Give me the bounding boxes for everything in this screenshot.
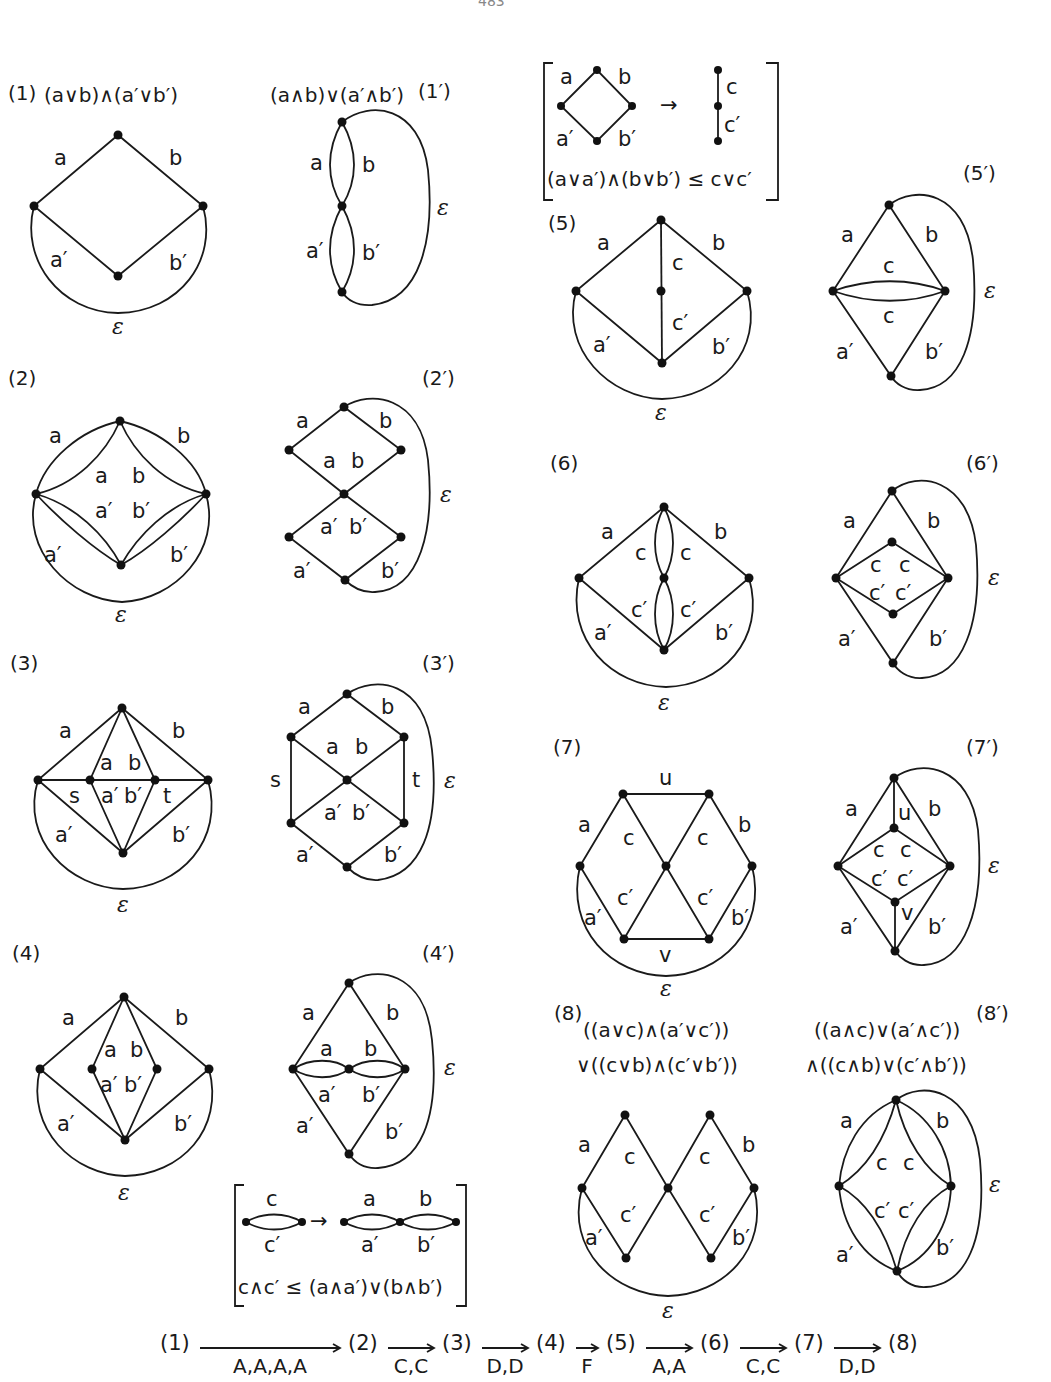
edge xyxy=(655,578,673,650)
node xyxy=(32,490,41,499)
figure-3-prime: (3′) a b a b s t a′ b′ a′ b′ ε xyxy=(270,651,456,880)
node xyxy=(572,287,581,296)
edge-label: c xyxy=(699,1145,711,1169)
node xyxy=(593,137,601,145)
edge-label: b′ xyxy=(124,1073,142,1097)
edge-label: b′ xyxy=(936,1236,954,1260)
node xyxy=(750,1184,759,1193)
edge-label: c xyxy=(697,826,709,850)
node xyxy=(705,790,714,799)
bracket-right xyxy=(766,63,778,200)
edge-label: c xyxy=(903,1151,915,1175)
node xyxy=(338,288,347,297)
edge-label: b′ xyxy=(124,784,142,808)
edge-label: b′ xyxy=(929,627,947,651)
node xyxy=(619,790,628,799)
edge-label: a xyxy=(578,1133,591,1157)
epsilon-edge xyxy=(342,110,430,305)
sequence-arrow xyxy=(482,1344,528,1352)
edge-label: a′ xyxy=(306,239,324,263)
node xyxy=(946,862,955,871)
edge-label: c xyxy=(680,541,692,565)
node xyxy=(892,1096,901,1105)
sequence-move: A,A,A,A xyxy=(233,1354,307,1378)
node xyxy=(340,403,349,412)
bracket-right xyxy=(456,1185,466,1306)
edge xyxy=(833,281,945,301)
rule-top-inequality: (a∨a′)∧(b∨b′) ≤ c∨c′ xyxy=(547,167,752,191)
edge-label: c′ xyxy=(697,886,714,910)
lattice-diagram-figure: 483 (1) (a∨b)∧(a′∨b′) a b a′ b′ ε (a∧b)∨… xyxy=(0,0,1051,1382)
edge-label: b xyxy=(128,751,141,775)
sequence-arrow xyxy=(200,1344,340,1352)
edge-label: b′ xyxy=(362,1083,380,1107)
edge-label: c xyxy=(900,838,912,862)
node xyxy=(340,490,349,499)
edge-label: a xyxy=(310,151,323,175)
node xyxy=(114,272,123,281)
edge-label: c xyxy=(726,75,738,99)
edge-label: a′ xyxy=(50,248,68,272)
edge-label: c′ xyxy=(264,1233,281,1257)
node xyxy=(340,1218,348,1226)
figure-5p-tag: (5′) xyxy=(963,161,996,185)
sequence-arrow xyxy=(740,1344,786,1352)
epsilon-label: ε xyxy=(660,976,672,1001)
epsilon-label: ε xyxy=(984,278,996,303)
edge-label: c′ xyxy=(871,867,888,891)
edge-label: a′ xyxy=(361,1233,379,1257)
edge xyxy=(293,1061,349,1078)
node xyxy=(204,776,213,785)
edge-label: s xyxy=(69,784,80,808)
edge-label: b′ xyxy=(417,1233,435,1257)
edge-label: a′ xyxy=(593,333,611,357)
arrow: → xyxy=(660,93,678,117)
node xyxy=(34,776,43,785)
edge-label: b′ xyxy=(715,621,733,645)
node xyxy=(593,66,601,74)
figure-6: (6) a b c c c′ c′ a′ b′ ε xyxy=(550,451,754,715)
node xyxy=(287,733,296,742)
edge-label: c′ xyxy=(680,598,697,622)
edge-label: a′ xyxy=(296,843,314,867)
edge-label: a′ xyxy=(838,627,856,651)
node xyxy=(705,935,714,944)
node xyxy=(889,659,898,668)
edge-label: a xyxy=(54,146,67,170)
node xyxy=(941,287,950,296)
edge-label: b xyxy=(742,1133,755,1157)
sequence-move: F xyxy=(581,1354,593,1378)
edge-label: b xyxy=(379,409,392,433)
node xyxy=(575,574,584,583)
node xyxy=(888,538,897,547)
edge-label: b′ xyxy=(731,906,749,930)
figure-4-prime: (4′) a b a b a′ b′ a′ b′ ε xyxy=(289,941,456,1168)
edge-label: a xyxy=(62,1006,75,1030)
node xyxy=(401,1065,410,1074)
node xyxy=(748,862,757,871)
edge-label: b xyxy=(738,813,751,837)
node xyxy=(397,446,406,455)
edge-label: a xyxy=(560,65,573,89)
node xyxy=(714,137,722,145)
sequence-step: (2) xyxy=(348,1331,378,1355)
node xyxy=(893,1267,902,1276)
edge-label: a xyxy=(100,751,113,775)
node xyxy=(743,287,752,296)
figure-8: (8) ((a∨c)∧(a′∨c′)) ∨((c∨b)∧(c′∨b′)) a b… xyxy=(554,1001,759,1323)
node xyxy=(396,1218,404,1226)
node xyxy=(657,216,666,225)
edge xyxy=(344,1215,400,1230)
edge-label: b′ xyxy=(352,801,370,825)
epsilon-label: ε xyxy=(440,482,452,507)
edge-label: a xyxy=(302,1001,315,1025)
figure-3: (3) a b a b s a′ b′ t a′ b′ ε xyxy=(10,651,213,917)
edge-label: a′ xyxy=(836,340,854,364)
epsilon-label: ε xyxy=(444,1055,456,1080)
rule-box-bottom: c c′ → a b a′ b′ c∧c′ ≤ (a∧a′)∨(b∧b′) xyxy=(235,1185,466,1306)
figure-8-prime: (8′) ((a∧c)∨(a′∧c′)) ∧((c∧b)∨(c′∧b′)) a … xyxy=(805,1001,1009,1287)
edge-label: c′ xyxy=(620,1203,637,1227)
edge-label: c′ xyxy=(672,311,689,335)
edge-label: a xyxy=(296,409,309,433)
edge-label: a xyxy=(840,1109,853,1133)
